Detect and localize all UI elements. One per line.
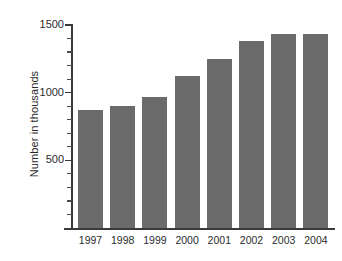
bar [175,76,200,228]
bar [110,106,135,228]
bars-layer [0,0,342,228]
bar [239,41,264,228]
bar [271,34,296,228]
x-axis-tick-label: 2004 [296,234,336,246]
bar [142,97,167,228]
bar [78,110,103,228]
x-axis-line [64,228,335,230]
bar-chart: Number in thousands 50010001500 19971998… [0,0,342,261]
bar [207,59,232,228]
bar [303,34,328,228]
